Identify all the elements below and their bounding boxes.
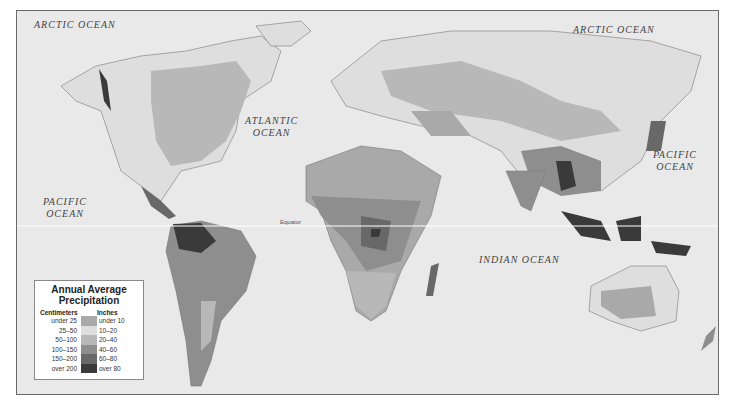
legend-cm: 150–200 bbox=[52, 355, 77, 362]
legend-in: over 80 bbox=[99, 365, 121, 372]
pacific-east-line2: OCEAN bbox=[653, 161, 697, 173]
legend-swatch bbox=[81, 364, 97, 374]
legend-swatch bbox=[81, 345, 97, 355]
legend-title-line1: Annual Average bbox=[35, 284, 143, 295]
legend-cm: 100–150 bbox=[52, 346, 77, 353]
legend-title-line2: Precipitation bbox=[35, 295, 143, 306]
atlantic-line2: OCEAN bbox=[245, 127, 298, 139]
atlantic-line1: ATLANTIC bbox=[245, 115, 298, 127]
pacific-west-line1: PACIFIC bbox=[43, 196, 87, 208]
legend-swatch bbox=[81, 354, 97, 364]
legend-cm: over 200 bbox=[52, 365, 77, 372]
legend: Annual Average Precipitation Centimeters… bbox=[34, 280, 144, 380]
legend-in: under 10 bbox=[99, 317, 125, 324]
legend-row: 100–150 40–60 bbox=[35, 345, 143, 355]
centimeters-header: Centimeters bbox=[40, 309, 78, 316]
equator-label: Equator bbox=[280, 219, 301, 225]
pacific-west-line2: OCEAN bbox=[43, 208, 87, 220]
legend-in: 60–80 bbox=[99, 355, 117, 362]
legend-row: over 200 over 80 bbox=[35, 364, 143, 374]
legend-swatch bbox=[81, 335, 97, 345]
legend-rows: under 25 under 10 25–50 10–20 50–100 20–… bbox=[35, 316, 143, 373]
legend-in: 10–20 bbox=[99, 327, 117, 334]
atlantic-ocean-label: ATLANTIC OCEAN bbox=[245, 115, 298, 139]
pacific-east-line1: PACIFIC bbox=[653, 149, 697, 161]
pacific-ocean-label-east: PACIFIC OCEAN bbox=[653, 149, 697, 173]
indian-ocean-label: INDIAN OCEAN bbox=[479, 254, 560, 266]
legend-in: 40–60 bbox=[99, 346, 117, 353]
pacific-ocean-label-west: PACIFIC OCEAN bbox=[43, 196, 87, 220]
legend-cm: 25–50 bbox=[59, 327, 77, 334]
legend-swatch bbox=[81, 316, 97, 326]
legend-row: under 25 under 10 bbox=[35, 316, 143, 326]
legend-cm: 50–100 bbox=[55, 336, 77, 343]
arctic-ocean-label-west: ARCTIC OCEAN bbox=[34, 19, 116, 31]
inches-header: Inches bbox=[97, 309, 118, 316]
legend-swatch bbox=[81, 326, 97, 336]
legend-in: 20–40 bbox=[99, 336, 117, 343]
legend-row: 150–200 60–80 bbox=[35, 354, 143, 364]
legend-row: 25–50 10–20 bbox=[35, 326, 143, 336]
legend-cm: under 25 bbox=[51, 317, 77, 324]
legend-row: 50–100 20–40 bbox=[35, 335, 143, 345]
legend-title: Annual Average Precipitation bbox=[35, 284, 143, 306]
arctic-ocean-label-east: ARCTIC OCEAN bbox=[573, 24, 655, 36]
